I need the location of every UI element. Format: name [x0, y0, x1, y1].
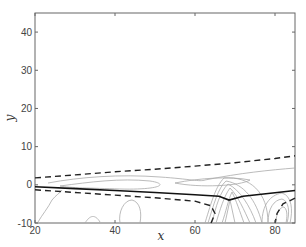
- y-tick-label: 0: [26, 179, 32, 190]
- y-tick-label: 20: [21, 103, 33, 114]
- y-tick-label: 40: [21, 27, 33, 38]
- plot-area: [35, 13, 295, 223]
- y-tick-label: 10: [21, 141, 33, 152]
- y-axis-label: y: [3, 114, 17, 122]
- x-tick-label: 80: [269, 225, 281, 236]
- x-axis-label: x: [158, 229, 165, 243]
- x-tick-label: 40: [109, 225, 121, 236]
- x-tick-label: 60: [189, 225, 201, 236]
- chart: 20406080-10010203040 x y: [0, 0, 306, 247]
- y-tick-label: -10: [18, 218, 33, 229]
- y-tick-label: 30: [21, 65, 33, 76]
